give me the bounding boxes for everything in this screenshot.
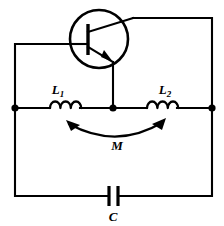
inductor-l1-coil bbox=[50, 102, 81, 109]
node-right bbox=[208, 104, 215, 111]
inductor-l2-label: L bbox=[158, 82, 167, 97]
inductor-l1 bbox=[50, 102, 81, 109]
inductor-l1-label: L bbox=[51, 82, 60, 97]
circuit-diagram: L1 L2 M C bbox=[0, 0, 224, 226]
inductor-l2-subscript: 2 bbox=[166, 89, 172, 99]
node-left bbox=[11, 104, 18, 111]
transistor-emitter-arrow-icon bbox=[101, 50, 113, 62]
capacitor-c bbox=[109, 186, 118, 206]
wire-right-rail-to-capacitor bbox=[118, 108, 212, 196]
inductor-l2-label-group: L2 bbox=[158, 82, 172, 99]
wire-left-rail-to-capacitor bbox=[15, 108, 109, 196]
inductor-l2 bbox=[147, 102, 178, 109]
circuit-schematic-canvas: L1 L2 M C bbox=[0, 0, 224, 226]
mutual-arrow-head-right-icon bbox=[152, 118, 166, 130]
transistor bbox=[70, 10, 133, 68]
inductor-l2-coil bbox=[147, 102, 178, 109]
inductor-l1-subscript: 1 bbox=[60, 89, 65, 99]
inductor-l1-label-group: L1 bbox=[51, 82, 64, 99]
mutual-inductance-label: M bbox=[110, 138, 123, 153]
mutual-inductance-arrow bbox=[66, 118, 166, 137]
transistor-envelope-circle bbox=[70, 10, 128, 68]
capacitor-label: C bbox=[109, 209, 118, 224]
node-center bbox=[109, 104, 116, 111]
mutual-coupling-arc bbox=[69, 122, 163, 137]
wire-collector-to-right-node bbox=[133, 18, 212, 108]
